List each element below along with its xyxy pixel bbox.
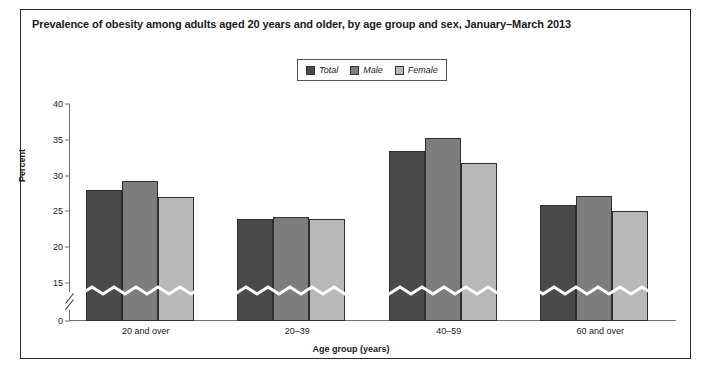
y-tick-mark [65,175,70,176]
bar-female-1[interactable] [309,219,345,321]
bar-male-0[interactable] [122,181,158,321]
x-axis-title: Age group (years) [0,344,702,354]
x-tick-label: 40–59 [373,326,525,336]
plot-area: 0152025303540 [70,104,676,321]
y-tick-mark [65,104,70,105]
bar-total-1[interactable] [237,219,273,321]
chart-title: Prevalence of obesity among adults aged … [32,18,571,30]
legend-item: Male [350,65,383,75]
legend-label: Female [408,65,438,75]
y-tick-mark [65,283,70,284]
bar-total-0[interactable] [86,190,122,321]
y-tick-mark [65,321,70,322]
bar-male-1[interactable] [273,217,309,321]
y-tick-mark [65,247,70,248]
figure-container: Prevalence of obesity among adults aged … [0,0,702,367]
y-axis-title: Percent [17,149,27,182]
axis-break-zigzag [70,284,676,298]
bar-total-3[interactable] [540,205,576,321]
legend-swatch-icon [350,66,359,75]
bar-male-3[interactable] [576,196,612,321]
legend-item: Female [395,65,438,75]
x-tick-label: 20–39 [222,326,374,336]
legend-label: Total [319,65,338,75]
y-tick-mark [65,139,70,140]
legend-swatch-icon [306,66,315,75]
y-tick-mark [65,211,70,212]
legend-item: Total [306,65,338,75]
x-tick-label: 60 and over [525,326,677,336]
legend-swatch-icon [395,66,404,75]
x-tick-label: 20 and over [70,326,222,336]
bar-female-0[interactable] [158,197,194,321]
chart-legend: TotalMaleFemale [297,59,447,81]
legend-label: Male [363,65,383,75]
bar-female-3[interactable] [612,211,648,321]
